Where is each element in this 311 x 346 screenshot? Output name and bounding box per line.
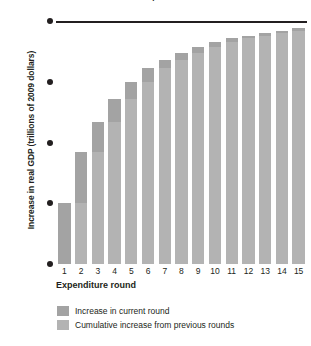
bar-segment-current-round xyxy=(175,53,187,60)
x-tick-label-13: 13 xyxy=(257,266,274,276)
bar-segment-previous-rounds xyxy=(292,31,304,264)
legend-swatch-current-round xyxy=(57,306,69,316)
bar-segment-previous-rounds xyxy=(209,47,221,264)
x-tick-label-12: 12 xyxy=(240,266,257,276)
chart-container: The Multiplier Effect Increase in real G… xyxy=(0,0,311,346)
bar-group xyxy=(56,21,307,264)
legend-item-current-round: Increase in current round xyxy=(57,305,234,316)
x-tick-label-1: 1 xyxy=(56,266,73,276)
x-tick-label-14: 14 xyxy=(274,266,291,276)
y-tick-dot-icon xyxy=(47,140,53,146)
x-axis-title: Expenditure round xyxy=(56,280,136,290)
bar-segment-previous-rounds xyxy=(92,152,104,264)
bar-segment-current-round xyxy=(58,203,70,264)
y-tick-dot-icon xyxy=(47,79,53,85)
x-tick-label-7: 7 xyxy=(156,266,173,276)
bar-segment-previous-rounds xyxy=(259,36,271,264)
bar-round-8 xyxy=(175,53,187,264)
bar-segment-current-round xyxy=(92,122,104,152)
legend-label-previous-rounds: Cumulative increase from previous rounds xyxy=(75,320,234,330)
bar-segment-previous-rounds xyxy=(175,60,187,264)
bar-round-2 xyxy=(75,152,87,264)
bar-segment-previous-rounds xyxy=(159,68,171,264)
x-tick-label-11: 11 xyxy=(223,266,240,276)
bar-segment-current-round xyxy=(142,68,154,81)
bar-segment-previous-rounds xyxy=(125,99,137,264)
bar-round-9 xyxy=(192,47,204,264)
bar-round-4 xyxy=(108,99,120,264)
bar-round-11 xyxy=(226,38,238,264)
x-tick-label-3: 3 xyxy=(89,266,106,276)
bar-round-13 xyxy=(259,33,271,264)
x-axis-tick-labels: 123456789101112131415 xyxy=(56,266,307,280)
x-tick-label-2: 2 xyxy=(73,266,90,276)
bar-segment-previous-rounds xyxy=(75,203,87,264)
bar-round-12 xyxy=(242,36,254,264)
bar-segment-previous-rounds xyxy=(276,33,288,264)
bar-round-15 xyxy=(292,28,304,264)
bar-segment-current-round xyxy=(75,152,87,203)
bar-round-10 xyxy=(209,42,221,264)
x-tick-label-5: 5 xyxy=(123,266,140,276)
y-tick-dot-icon xyxy=(47,200,53,206)
bar-round-1 xyxy=(58,203,70,264)
bar-round-7 xyxy=(159,60,171,264)
bar-round-3 xyxy=(92,122,104,264)
bar-segment-current-round xyxy=(125,82,137,99)
legend-item-previous-rounds: Cumulative increase from previous rounds xyxy=(57,319,234,330)
bar-segment-current-round xyxy=(108,99,120,122)
bar-segment-previous-rounds xyxy=(192,53,204,264)
x-tick-label-9: 9 xyxy=(190,266,207,276)
y-tick-dot-icon xyxy=(47,18,53,24)
x-tick-label-8: 8 xyxy=(173,266,190,276)
chart-legend: Increase in current round Cumulative inc… xyxy=(57,305,234,330)
x-tick-label-6: 6 xyxy=(140,266,157,276)
bar-segment-previous-rounds xyxy=(108,122,120,264)
bar-round-5 xyxy=(125,82,137,264)
bar-segment-previous-rounds xyxy=(242,38,254,264)
y-tick-dot-icon xyxy=(47,261,53,267)
legend-swatch-previous-rounds xyxy=(57,320,69,330)
bar-segment-current-round xyxy=(159,60,171,69)
plot-area: 00.51.01.52.0 xyxy=(56,21,307,264)
bar-segment-previous-rounds xyxy=(142,82,154,264)
chart-title: The Multiplier Effect xyxy=(0,0,311,1)
bar-round-6 xyxy=(142,68,154,264)
x-tick-label-10: 10 xyxy=(207,266,224,276)
y-axis-title: Increase in real GDP (trillions of 2009 … xyxy=(26,15,36,265)
legend-label-current-round: Increase in current round xyxy=(75,306,170,316)
bar-segment-previous-rounds xyxy=(226,42,238,264)
x-tick-label-15: 15 xyxy=(290,266,307,276)
bar-round-14 xyxy=(276,31,288,264)
x-tick-label-4: 4 xyxy=(106,266,123,276)
